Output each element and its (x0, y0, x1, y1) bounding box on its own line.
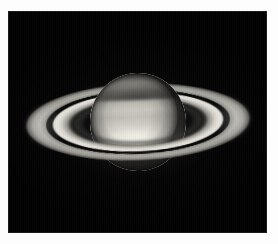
ring-ansae-glow-front (23, 122, 252, 165)
saturn-system (8, 11, 267, 233)
ring-plane-front (23, 122, 252, 165)
photo-frame (0, 0, 278, 244)
rings-near-half (8, 122, 267, 233)
screenshot-root: Telescopic image of the planet Saturn wi… (0, 0, 278, 244)
sky-background (8, 11, 267, 233)
